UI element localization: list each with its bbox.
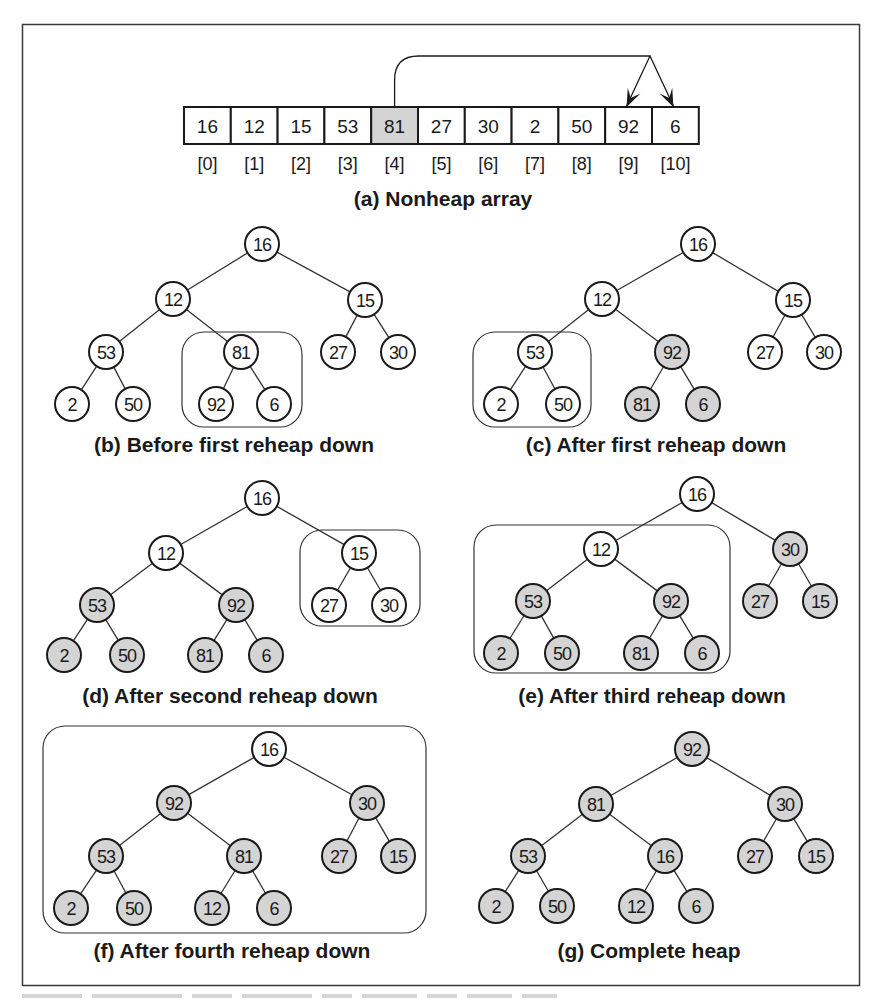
caption-f: (f) After fourth reheap down [94, 939, 371, 962]
tree-node-value: 92 [663, 343, 682, 363]
tree-edge [773, 315, 785, 337]
tree-node-value: 15 [356, 291, 375, 311]
tree-node-value: 12 [593, 290, 612, 310]
tree-node: 6 [685, 636, 719, 670]
tree-node: 30 [350, 786, 384, 820]
tree-node: 92 [219, 588, 253, 622]
tree-node: 30 [807, 335, 841, 369]
tree-node-value: 53 [97, 847, 116, 867]
tree-edge [189, 757, 254, 794]
tree-node: 2 [55, 387, 89, 421]
tree-edge [114, 871, 126, 893]
tree-node: 27 [312, 588, 346, 622]
tree-node: 53 [89, 839, 123, 873]
array-cell: 6 [652, 107, 699, 144]
tree-node: 27 [748, 335, 782, 369]
tree-node-value: 50 [118, 646, 137, 666]
tree-node-value: 6 [691, 897, 701, 917]
tree-panel-d: 16121553922730250816(d) After second reh… [47, 481, 420, 707]
tree-node: 16 [648, 839, 682, 873]
tree-edge [250, 366, 265, 389]
array-cell: 30 [465, 107, 512, 144]
subtree-highlight-box [43, 726, 426, 933]
tree-edge [645, 871, 657, 892]
tree-node-value: 53 [97, 343, 116, 363]
tree-edge [277, 252, 350, 292]
tree-node: 50 [117, 891, 151, 925]
array-cell-value: 50 [571, 116, 592, 137]
tree-node: 12 [584, 532, 618, 566]
tree-node: 53 [516, 584, 550, 618]
tree-node-value: 53 [524, 592, 543, 612]
tree-node: 2 [484, 387, 518, 421]
tree-node: 15 [348, 283, 382, 317]
tree-edge [214, 619, 227, 640]
tree-node: 92 [675, 732, 709, 766]
tree-node-value: 27 [756, 343, 775, 363]
tree-node: 2 [54, 891, 88, 925]
tree-node: 30 [768, 787, 802, 821]
caption-b: (b) Before first reheap down [94, 433, 374, 456]
tree-node: 92 [199, 387, 233, 421]
tree-node-value: 6 [269, 395, 279, 415]
nonheap-array-panel: 16121553812730250926 [0][1][2][3][4][5][… [184, 56, 699, 210]
array-cell-value: 15 [290, 116, 311, 137]
tree-edge [547, 559, 588, 590]
array-cell: 12 [231, 107, 278, 144]
tree-edge [187, 253, 247, 290]
tree-node-value: 92 [165, 794, 184, 814]
tree-edge [707, 758, 771, 796]
tree-node: 15 [799, 839, 833, 873]
tree-edge [674, 870, 687, 891]
tree-node: 16 [680, 477, 714, 511]
tree-node: 81 [227, 839, 261, 873]
tree-node-value: 50 [125, 899, 144, 919]
tree-node-value: 27 [329, 343, 348, 363]
tree-node-value: 81 [196, 646, 215, 666]
tree-edge [541, 616, 553, 638]
array-index-label: [5] [431, 154, 451, 174]
tree-node-value: 6 [269, 899, 279, 919]
tree-node-value: 81 [633, 395, 652, 415]
tree-node: 50 [540, 889, 574, 923]
tree-node-value: 27 [746, 847, 765, 867]
array-cell: 16 [184, 107, 231, 144]
tree-node: 81 [624, 636, 658, 670]
tree-edge [763, 819, 776, 842]
tree-edge [337, 568, 350, 591]
tree-node: 15 [342, 536, 376, 570]
tree-node-value: 15 [350, 544, 369, 564]
tree-node: 53 [89, 335, 123, 369]
tree-edge [798, 564, 811, 587]
tree-node-value: 92 [227, 596, 246, 616]
tree-node: 6 [249, 638, 283, 672]
array-cell: 27 [418, 107, 465, 144]
array-cell: 53 [324, 107, 371, 144]
tree-edge [768, 564, 781, 587]
tree-node: 12 [149, 536, 183, 570]
array-index-label: [1] [244, 154, 264, 174]
tree-node-value: 12 [157, 544, 176, 564]
tree-edge [347, 818, 359, 841]
array-index-label: [10] [660, 154, 690, 174]
tree-node-value: 2 [67, 395, 77, 415]
tree-node: 15 [776, 283, 810, 317]
tree-node: 6 [679, 889, 713, 923]
tree-edge [712, 503, 776, 541]
tree-node: 53 [80, 588, 114, 622]
tree-edge [681, 367, 695, 390]
tree-node: 12 [156, 282, 190, 316]
tree-edge [111, 563, 153, 595]
array-cell: 92 [605, 107, 652, 144]
tree-node: 50 [546, 387, 580, 421]
tree-panel-c: 16121553922730250816(c) After first rehe… [473, 227, 841, 456]
array-cell-value: 6 [670, 116, 681, 137]
array-index-label: [6] [478, 154, 498, 174]
tree-node: 92 [654, 584, 688, 618]
tree-edge [284, 757, 352, 795]
tree-node-value: 92 [662, 592, 681, 612]
tree-edge [73, 619, 87, 641]
tree-node-value: 12 [592, 540, 611, 560]
array-cell-value: 27 [431, 116, 452, 137]
tree-edge [505, 870, 519, 891]
